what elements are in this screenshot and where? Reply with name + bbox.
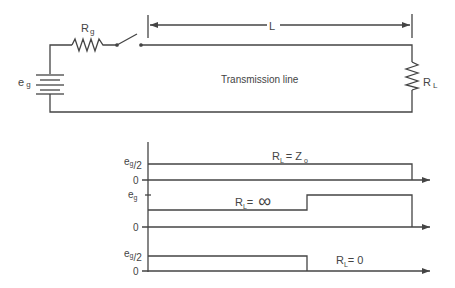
source-wire xyxy=(50,45,72,74)
source-resistor-label: R xyxy=(81,22,89,34)
svg-text:0: 0 xyxy=(133,222,139,233)
length-label: L xyxy=(269,20,275,32)
svg-text:0: 0 xyxy=(133,266,139,277)
transmission-line-diagram: eg Rg L Transmission line RL eg/2 0 RL= … xyxy=(0,0,455,288)
source-resistor-icon xyxy=(72,39,117,51)
waveform-open xyxy=(148,195,412,227)
svg-text:RL= 0: RL= 0 xyxy=(336,254,363,268)
svg-text:eg: eg xyxy=(18,76,31,89)
switch-icon xyxy=(117,34,137,45)
battery-icon xyxy=(36,75,64,94)
svg-text:Rg: Rg xyxy=(81,22,94,36)
load-resistor-icon xyxy=(406,62,418,90)
source-label: e xyxy=(18,76,24,88)
svg-text:RL= Zo: RL= Zo xyxy=(272,150,308,164)
waveform-matched xyxy=(148,164,412,180)
svg-text:RL=∞: RL=∞ xyxy=(235,191,271,211)
svg-text:0: 0 xyxy=(133,175,139,186)
svg-text:eg/2: eg/2 xyxy=(124,156,142,171)
line-label: Transmission line xyxy=(221,74,299,85)
load-label: R xyxy=(423,76,431,88)
waveform-short xyxy=(148,256,307,271)
svg-text:RL: RL xyxy=(423,76,438,90)
svg-text:eg/2: eg/2 xyxy=(124,248,142,263)
svg-text:eg: eg xyxy=(128,189,138,202)
